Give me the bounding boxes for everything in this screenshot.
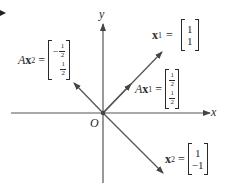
ax1-entry-2-frac: 1 2	[169, 90, 175, 106]
page-marker-icon	[0, 10, 6, 16]
ax2-entry-1: − 1 2	[53, 43, 66, 59]
ax1-equals: =	[155, 82, 162, 97]
ax2-entry-1-num: 1	[61, 43, 65, 50]
ax1-entry-2-den: 2	[170, 99, 174, 106]
ax1-entry-1: 1 2	[169, 72, 175, 88]
ax2-subscript: 2	[31, 56, 35, 65]
ax2-entry-2-num: 1	[61, 61, 65, 68]
ax1-entry-1-den: 2	[170, 81, 174, 88]
ax1-entry-1-num: 1	[170, 72, 174, 79]
x1-equals: =	[166, 28, 173, 43]
ax1-entry-2-num: 1	[170, 90, 174, 97]
ax2-equals: =	[38, 53, 45, 68]
origin-point	[101, 111, 105, 115]
vector-x2-label: x2 = 1 −1	[165, 143, 208, 175]
vector-x1-label: x1 = 1 1	[152, 19, 199, 51]
ax2-entry-1-frac: 1 2	[59, 43, 65, 59]
x1-subscript: 1	[158, 31, 162, 40]
vector-ax2-arrow	[74, 83, 103, 113]
vector-ax1-label: Ax1 = 1 2 1 2	[135, 69, 179, 109]
x2-equals: =	[178, 152, 185, 167]
ax1-matrix-a: A	[135, 82, 142, 97]
origin-label: O	[90, 117, 99, 129]
vector-ax1-arrow	[103, 84, 131, 113]
x2-entry-2: −1	[192, 159, 204, 171]
ax1-entry-2: 1 2	[169, 90, 175, 106]
y-axis-label: y	[99, 8, 104, 20]
x2-matrix: 1 −1	[188, 143, 208, 175]
x1-entry-2: 1	[185, 35, 195, 47]
x2-entry-1: 1	[193, 147, 203, 159]
x1-matrix: 1 1	[181, 19, 199, 51]
vector-x2-arrow	[103, 113, 163, 173]
vector-ax2-label: Ax2 = − 1 2 1 2	[18, 40, 70, 80]
ax1-entry-1-frac: 1 2	[169, 72, 175, 88]
ax2-entry-2-frac: 1 2	[60, 61, 66, 77]
x-axis-label: x	[211, 106, 216, 118]
ax1-subscript: 1	[148, 85, 152, 94]
ax2-entry-1-sign: −	[53, 46, 59, 57]
ax1-matrix: 1 2 1 2	[165, 69, 179, 109]
ax2-matrix: − 1 2 1 2	[48, 40, 70, 80]
x2-subscript: 2	[171, 155, 175, 164]
ax2-entry-2-den: 2	[61, 70, 65, 77]
x1-entry-1: 1	[185, 23, 195, 35]
ax2-matrix-a: A	[18, 53, 25, 68]
ax2-entry-2: 1 2	[60, 61, 66, 77]
ax2-entry-1-den: 2	[61, 52, 65, 59]
